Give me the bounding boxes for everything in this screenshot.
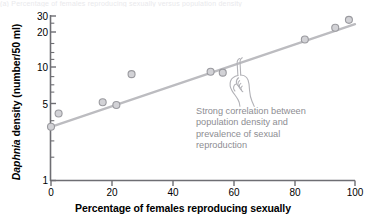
x-axis-ticks	[51, 181, 355, 187]
data-point[interactable]	[48, 123, 55, 130]
x-tick-label-80: 80	[283, 187, 307, 198]
data-point[interactable]	[99, 99, 106, 106]
data-point[interactable]	[207, 68, 214, 75]
x-axis-title: Percentage of females reproducing sexual…	[0, 202, 366, 214]
data-point[interactable]	[345, 16, 352, 23]
y-axis-title-rest: density (number/50 ml)	[10, 24, 22, 140]
data-point[interactable]	[332, 24, 339, 31]
y-axis-major-ticks	[51, 16, 57, 181]
chart-figure: (a) Percentage of females reproducing se…	[0, 0, 366, 224]
y-axis-title: Daphnia density (number/50 ml)	[10, 14, 22, 190]
y-tick-label-1: 1	[26, 175, 48, 186]
y-tick-label-30: 30	[26, 11, 48, 22]
y-tick-label-10: 10	[26, 62, 48, 73]
y-tick-label-5: 5	[26, 99, 48, 110]
data-point[interactable]	[55, 110, 62, 117]
x-tick-label-0: 0	[39, 187, 63, 198]
y-axis-title-genus: Daphnia	[10, 139, 22, 180]
data-point[interactable]	[113, 102, 120, 109]
data-point[interactable]	[128, 71, 135, 78]
x-tick-label-40: 40	[161, 187, 185, 198]
x-tick-label-60: 60	[222, 187, 246, 198]
data-point[interactable]	[301, 36, 308, 43]
y-tick-label-20: 20	[26, 27, 48, 38]
correlation-callout: Strong correlation between population de…	[196, 106, 356, 152]
x-tick-label-20: 20	[100, 187, 124, 198]
pointing-hand-icon	[226, 56, 260, 108]
x-tick-label-100: 100	[343, 187, 366, 198]
